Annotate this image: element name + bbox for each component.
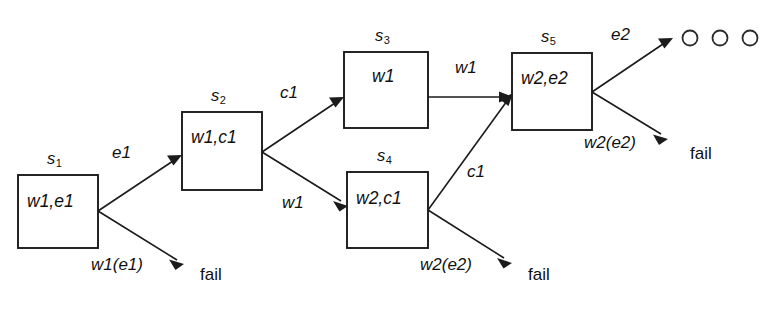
fail-node-3: fail <box>690 145 712 162</box>
state-name-s5-subscript: 5 <box>550 35 556 47</box>
state-name-s1: s1 <box>47 150 61 167</box>
state-name-s4-letter: s <box>377 146 385 164</box>
edge-line-s1-fail1 <box>98 211 177 260</box>
edge-label-c1-s4-s5: c1 <box>467 163 485 180</box>
state-box-s3[interactable] <box>344 52 428 128</box>
edge-label-w1-e1: w1(e1) <box>91 256 143 273</box>
edge-line-s5-fail3 <box>592 92 661 134</box>
edge-label-w2-e2-s5-arg: (e2) <box>606 133 636 152</box>
state-name-s3: s3 <box>375 27 389 44</box>
edge-label-w1-s2-s4: w1 <box>282 194 304 211</box>
arrow-head-s1-fail1 <box>169 260 184 271</box>
state-contents-s1: w1,e1 <box>27 193 74 211</box>
edge-label-w2-e2-s5-head: w2 <box>584 133 606 152</box>
state-transition-diagram: s1 s2 s3 s4 s5 w1,e1 w1,c1 w1 w2,c1 w2,e… <box>0 0 772 311</box>
state-name-s1-subscript: 1 <box>56 157 62 169</box>
state-contents-s2: w1,c1 <box>191 129 237 147</box>
edge-label-w2-e2-s5: w2(e2) <box>584 134 636 151</box>
edge-label-w1-e1-arg: (e1) <box>113 255 143 274</box>
state-name-s1-letter: s <box>47 149 55 167</box>
fail-node-2: fail <box>528 266 550 283</box>
state-name-s5: s5 <box>541 28 555 45</box>
edge-label-w1-e1-head: w1 <box>91 255 113 274</box>
state-contents-s4: w2,c1 <box>356 190 402 208</box>
state-name-s2-letter: s <box>211 86 219 104</box>
state-box-s5[interactable] <box>512 53 592 130</box>
state-name-s4: s4 <box>377 147 391 164</box>
outcome-circle-1[interactable] <box>683 31 698 46</box>
edge-line-s1-s2 <box>98 159 176 211</box>
state-contents-s3: w1 <box>372 68 394 86</box>
edge-line-s2-s3 <box>262 101 338 152</box>
edge-label-w2-e2-s4-arg: (e2) <box>442 255 472 274</box>
state-name-s2-subscript: 2 <box>220 94 226 106</box>
edge-line-s4-fail2 <box>428 210 504 258</box>
arrow-head-s5-fail3 <box>653 135 668 146</box>
outcome-circle-2[interactable] <box>713 31 728 46</box>
state-name-s5-letter: s <box>541 27 549 45</box>
edge-label-w1-s3-s5: w1 <box>455 59 477 76</box>
edge-label-w2-e2-s4-head: w2 <box>420 255 442 274</box>
fail-node-1: fail <box>200 266 222 283</box>
arrow-head-s5-outcomes <box>658 38 673 49</box>
edge-label-e2: e2 <box>611 26 630 43</box>
arrow-head-s2-s4 <box>333 201 348 212</box>
outcome-circle-3[interactable] <box>743 31 758 46</box>
state-name-s2: s2 <box>211 87 225 104</box>
edge-label-w2-e2-s4: w2(e2) <box>420 256 472 273</box>
edge-label-e1: e1 <box>112 144 131 161</box>
arrow-head-s4-fail2 <box>497 258 512 269</box>
state-name-s4-subscript: 4 <box>386 154 392 166</box>
state-name-s3-subscript: 3 <box>384 34 390 46</box>
state-box-s2[interactable] <box>182 112 262 190</box>
state-contents-s5: w2,e2 <box>521 70 568 88</box>
state-box-s1[interactable] <box>18 175 98 248</box>
edge-line-s4-s5 <box>428 101 507 210</box>
state-name-s3-letter: s <box>375 26 383 44</box>
edge-label-c1-s2-s3: c1 <box>280 84 298 101</box>
state-box-s4[interactable] <box>347 172 428 248</box>
edge-line-s5-outcomes <box>592 42 666 92</box>
